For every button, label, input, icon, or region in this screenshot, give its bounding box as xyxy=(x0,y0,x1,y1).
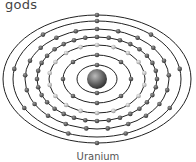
electron xyxy=(111,45,116,50)
electron xyxy=(119,94,124,99)
electron xyxy=(95,53,100,58)
electron xyxy=(111,109,116,114)
electron xyxy=(47,71,52,76)
electron xyxy=(137,47,142,52)
electron xyxy=(32,102,37,107)
electron xyxy=(23,73,28,78)
electron xyxy=(123,131,128,136)
electron xyxy=(64,122,69,127)
electron xyxy=(154,69,159,74)
electron xyxy=(167,106,172,111)
electron xyxy=(95,141,100,146)
electron xyxy=(128,42,133,47)
electron xyxy=(157,102,162,107)
electron xyxy=(36,69,41,74)
electron xyxy=(116,29,121,34)
electron xyxy=(129,77,134,82)
electron xyxy=(36,85,41,90)
electron xyxy=(177,67,182,72)
electron xyxy=(12,67,17,72)
electron xyxy=(47,83,52,88)
electron xyxy=(74,29,79,34)
electron xyxy=(149,32,154,37)
electron xyxy=(64,51,69,56)
electron xyxy=(135,35,140,40)
electron xyxy=(142,83,147,88)
electron xyxy=(128,112,133,117)
electron xyxy=(119,60,124,65)
electron xyxy=(95,101,100,106)
electron xyxy=(45,53,50,58)
electron xyxy=(35,77,40,82)
electron xyxy=(66,131,71,136)
electron xyxy=(126,103,131,108)
electron xyxy=(155,77,160,82)
electron xyxy=(52,106,57,111)
electron xyxy=(41,32,46,37)
electron xyxy=(151,46,156,51)
electron xyxy=(61,77,66,82)
electron xyxy=(25,88,30,93)
electron xyxy=(118,116,123,121)
electron xyxy=(136,60,141,65)
electron xyxy=(53,60,58,65)
electron xyxy=(167,73,172,78)
electron xyxy=(95,119,100,124)
electron xyxy=(22,106,27,111)
electron xyxy=(52,47,57,52)
electron xyxy=(118,38,123,43)
electron xyxy=(53,94,58,99)
electron xyxy=(46,113,51,118)
electron xyxy=(162,58,167,63)
electron xyxy=(95,43,100,48)
electron xyxy=(144,113,149,118)
electron xyxy=(61,112,66,117)
electron xyxy=(154,85,159,90)
electron xyxy=(84,126,89,131)
electron xyxy=(72,38,77,43)
electron xyxy=(95,13,100,18)
electron xyxy=(126,122,131,127)
electron xyxy=(71,60,76,65)
electron xyxy=(83,118,88,123)
electron xyxy=(72,116,77,121)
electron xyxy=(38,46,43,51)
electron xyxy=(142,71,147,76)
electron xyxy=(95,111,100,116)
electron xyxy=(95,35,100,40)
electron xyxy=(95,27,100,32)
uranium-atom-diagram xyxy=(0,0,196,162)
element-label: Uranium xyxy=(0,151,196,162)
electron xyxy=(61,42,66,47)
nucleus xyxy=(87,69,107,89)
electron xyxy=(95,63,100,68)
electron xyxy=(150,93,155,98)
electron xyxy=(95,19,100,24)
electron xyxy=(54,35,59,40)
electron xyxy=(126,51,131,56)
electron xyxy=(78,45,83,50)
electron xyxy=(39,61,44,66)
electron xyxy=(145,53,150,58)
electron xyxy=(71,94,76,99)
electron xyxy=(78,109,83,114)
electron xyxy=(83,36,88,41)
electron xyxy=(165,88,170,93)
electron xyxy=(137,106,142,111)
electron xyxy=(150,61,155,66)
electron xyxy=(106,118,111,123)
electron xyxy=(64,103,69,108)
electron xyxy=(105,126,110,131)
electron xyxy=(39,93,44,98)
electron xyxy=(45,100,50,105)
electron xyxy=(106,36,111,41)
electron xyxy=(136,94,141,99)
electron xyxy=(95,91,100,96)
electron xyxy=(145,100,150,105)
electron xyxy=(28,58,33,63)
